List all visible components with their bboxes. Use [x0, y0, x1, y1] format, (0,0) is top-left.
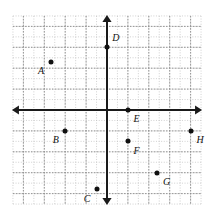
coordinate-plane-figure: ABCDEFGH [0, 0, 213, 220]
axes [12, 15, 202, 205]
point-g [155, 170, 160, 175]
point-b [63, 128, 68, 133]
point-label-e: E [134, 114, 140, 124]
point-d [105, 45, 110, 50]
point-label-a: A [38, 66, 44, 76]
point-label-f: F [134, 146, 140, 156]
point-c [94, 187, 99, 192]
point-label-d: D [112, 33, 119, 43]
point-h [188, 128, 193, 133]
point-f [125, 139, 130, 144]
point-label-b: B [53, 135, 59, 145]
point-label-g: G [163, 177, 170, 187]
point-label-h: H [196, 135, 203, 145]
point-label-c: C [84, 194, 91, 204]
grid-surface [0, 0, 213, 220]
point-e [125, 108, 130, 113]
point-a [48, 59, 53, 64]
